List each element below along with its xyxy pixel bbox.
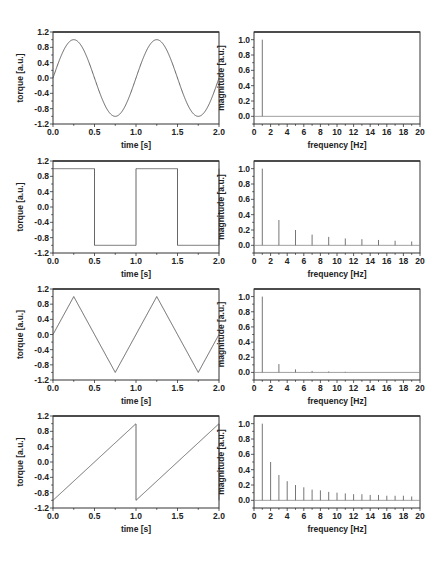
y-tick-label: 0.4 bbox=[238, 81, 250, 91]
y-tick-label: -0.4 bbox=[34, 345, 49, 355]
x-tick-label: 1.0 bbox=[130, 127, 142, 137]
y-tick-label: 0.8 bbox=[37, 299, 49, 309]
y-tick-label: 0.8 bbox=[37, 42, 49, 52]
x-tick-label: 6 bbox=[301, 383, 306, 393]
x-tick-label: 12 bbox=[349, 383, 359, 393]
x-tick-label: 0.5 bbox=[89, 256, 101, 266]
y-tick-label: 0.4 bbox=[37, 58, 49, 68]
y-tick-label: 1.2 bbox=[37, 284, 49, 294]
y-axis-label: torque [a.u.] bbox=[15, 182, 25, 231]
x-tick-label: 10 bbox=[332, 511, 342, 521]
x-tick-label: 8 bbox=[318, 511, 323, 521]
x-tick-label: 2 bbox=[268, 383, 273, 393]
x-axis-label: frequency [Hz] bbox=[307, 524, 366, 534]
x-tick-label: 1.0 bbox=[130, 511, 142, 521]
x-tick-label: 20 bbox=[415, 127, 425, 137]
y-tick-label: 0.2 bbox=[238, 352, 250, 362]
x-tick-label: 4 bbox=[285, 127, 290, 137]
y-tick-label: -0.8 bbox=[34, 233, 49, 243]
y-tick-label: 0.0 bbox=[238, 367, 250, 377]
x-tick-label: 8 bbox=[318, 127, 323, 137]
figure: 0.00.51.01.52.01.20.80.40.0-0.4-0.8-1.2t… bbox=[0, 0, 447, 566]
x-tick-label: 2.0 bbox=[213, 127, 225, 137]
y-tick-label: 0.0 bbox=[37, 73, 49, 83]
y-tick-label: 0.4 bbox=[238, 465, 250, 475]
x-tick-label: 10 bbox=[332, 383, 342, 393]
x-tick-label: 8 bbox=[318, 256, 323, 266]
x-tick-label: 18 bbox=[399, 383, 409, 393]
y-tick-label: 0.4 bbox=[238, 210, 250, 220]
y-tick-label: -0.8 bbox=[34, 104, 49, 114]
y-tick-label: 0.2 bbox=[238, 480, 250, 490]
y-axis-label: torque [a.u.] bbox=[15, 310, 25, 359]
plot-frame bbox=[254, 32, 420, 124]
x-tick-label: 14 bbox=[365, 256, 375, 266]
chart-panel-sine-time: 0.00.51.01.52.01.20.80.40.0-0.4-0.8-1.2t… bbox=[15, 27, 225, 150]
x-tick-label: 4 bbox=[285, 256, 290, 266]
chart-panel-sawtooth-time: 0.00.51.01.52.01.20.80.40.0-0.4-0.8-1.2t… bbox=[15, 411, 225, 534]
x-tick-label: 18 bbox=[399, 127, 409, 137]
y-tick-label: -1.2 bbox=[34, 503, 49, 513]
x-axis-label: frequency [Hz] bbox=[307, 269, 366, 279]
y-tick-label: 0.0 bbox=[37, 457, 49, 467]
y-axis-label: magnitude [a.u.] bbox=[216, 429, 226, 495]
y-axis-label: magnitude [a.u.] bbox=[216, 45, 226, 111]
y-tick-label: 0.8 bbox=[238, 307, 250, 317]
y-tick-label: 0.2 bbox=[238, 225, 250, 235]
x-tick-label: 6 bbox=[301, 127, 306, 137]
x-tick-label: 1.0 bbox=[130, 383, 142, 393]
x-axis-label: frequency [Hz] bbox=[307, 396, 366, 406]
x-tick-label: 14 bbox=[365, 127, 375, 137]
y-tick-label: -0.4 bbox=[34, 88, 49, 98]
x-tick-label: 18 bbox=[399, 256, 409, 266]
y-tick-label: 0.8 bbox=[238, 434, 250, 444]
signal-line bbox=[53, 297, 219, 373]
x-axis-label: time [s] bbox=[121, 396, 151, 406]
x-tick-label: 14 bbox=[365, 511, 375, 521]
chart-panel-square-time: 0.00.51.01.52.01.20.80.40.0-0.4-0.8-1.2t… bbox=[15, 156, 225, 279]
y-tick-label: 0.6 bbox=[238, 449, 250, 459]
x-tick-label: 12 bbox=[349, 511, 359, 521]
x-tick-label: 20 bbox=[415, 383, 425, 393]
x-tick-label: 18 bbox=[399, 511, 409, 521]
y-tick-label: -0.8 bbox=[34, 488, 49, 498]
y-axis-label: torque [a.u.] bbox=[15, 53, 25, 102]
y-tick-label: 0.8 bbox=[238, 179, 250, 189]
x-tick-label: 4 bbox=[285, 383, 290, 393]
x-tick-label: 10 bbox=[332, 127, 342, 137]
x-tick-label: 12 bbox=[349, 127, 359, 137]
y-tick-label: 0.4 bbox=[37, 314, 49, 324]
y-tick-label: 1.2 bbox=[37, 156, 49, 166]
chart-panel-sawtooth-spectrum: 024681012141618201.00.80.60.40.20.0frequ… bbox=[216, 416, 425, 534]
y-tick-label: -0.4 bbox=[34, 472, 49, 482]
x-tick-label: 2 bbox=[268, 127, 273, 137]
x-tick-label: 0.5 bbox=[89, 127, 101, 137]
x-tick-label: 2.0 bbox=[213, 383, 225, 393]
y-tick-label: 1.0 bbox=[238, 35, 250, 45]
y-tick-label: 0.4 bbox=[37, 442, 49, 452]
x-tick-label: 16 bbox=[382, 127, 392, 137]
signal-line bbox=[53, 40, 219, 117]
x-tick-label: 8 bbox=[318, 383, 323, 393]
x-tick-label: 6 bbox=[301, 256, 306, 266]
y-tick-label: 0.0 bbox=[37, 202, 49, 212]
y-tick-label: -1.2 bbox=[34, 248, 49, 258]
x-tick-label: 2 bbox=[268, 511, 273, 521]
y-tick-label: 0.4 bbox=[37, 187, 49, 197]
y-tick-label: 1.2 bbox=[37, 411, 49, 421]
y-tick-label: 0.0 bbox=[238, 495, 250, 505]
x-tick-label: 20 bbox=[415, 256, 425, 266]
y-axis-label: torque [a.u.] bbox=[15, 437, 25, 486]
x-tick-label: 0.5 bbox=[89, 511, 101, 521]
y-tick-label: 0.8 bbox=[37, 426, 49, 436]
y-tick-label: -0.8 bbox=[34, 360, 49, 370]
y-tick-label: -1.2 bbox=[34, 119, 49, 129]
x-tick-label: 1.0 bbox=[130, 256, 142, 266]
x-tick-label: 0 bbox=[252, 256, 257, 266]
x-tick-label: 1.5 bbox=[172, 383, 184, 393]
y-tick-label: 1.0 bbox=[238, 164, 250, 174]
x-tick-label: 0 bbox=[252, 383, 257, 393]
chart-panel-sine-spectrum: 024681012141618201.00.80.60.40.20.0frequ… bbox=[216, 32, 425, 150]
x-tick-label: 16 bbox=[382, 511, 392, 521]
x-tick-label: 2.0 bbox=[213, 256, 225, 266]
